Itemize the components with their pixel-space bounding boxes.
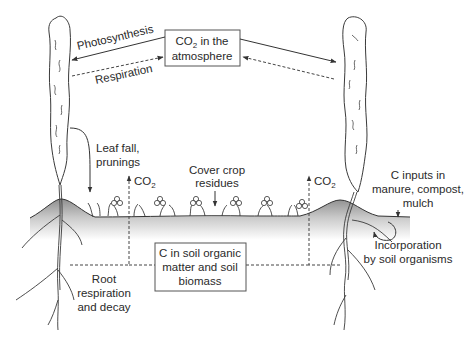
residue-tufts [88,196,308,217]
incorporation-label-2: by soil organisms [364,253,453,265]
c-inputs-label-3: mulch [403,197,434,209]
respiration-arrow-right [243,57,334,79]
cover-crop-label-1: Cover crop [189,164,245,176]
leaf-fall-arrow [70,128,90,192]
soil-box-line2: matter and soil [162,261,237,273]
photosynthesis-label: Photosynthesis [76,23,155,52]
leaf-fall-label-1: Leaf fall, [96,142,139,154]
c-inputs-label-2: manure, compost, [372,183,464,195]
incorporation-label-1: Incorporation [374,239,441,251]
root-resp-label-2: respiration [77,287,131,299]
atmosphere-label-line2: atmosphere [172,50,233,62]
c-inputs-label-1: C inputs in [391,169,445,181]
right-plant [330,17,392,330]
root-resp-label-1: Root [92,273,117,285]
leaf-fall-label-2: prunings [96,156,140,168]
soil-box-line1: C in soil organic [159,247,241,259]
co2-left-label: CO2 [134,175,156,190]
soil-carbon-box: C in soil organic matter and soil biomas… [129,243,309,291]
co2-right-label: CO2 [314,175,336,190]
root-resp-label-3: and decay [77,301,130,313]
cover-crop-label-2: residues [195,177,239,189]
soil-box-line3: biomass [179,275,222,287]
photosynthesis-arrow-right [240,39,336,62]
left-plant [16,16,82,330]
atmosphere-box: CO2 in the atmosphere [165,30,240,66]
carbon-cycle-diagram: CO2 in the atmosphere Photosynthesis Res… [0,0,464,345]
